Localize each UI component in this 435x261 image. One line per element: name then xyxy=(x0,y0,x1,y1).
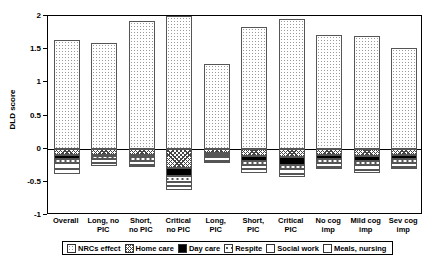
legend-swatch-icon xyxy=(266,244,275,253)
y-tick-mark xyxy=(43,214,47,215)
legend-label: Social work xyxy=(277,244,319,253)
y-axis-ticks: 21.510.50-0.5-1 xyxy=(0,15,47,214)
bar-stack xyxy=(279,16,305,215)
bar-segment xyxy=(354,170,380,173)
bar-segment xyxy=(279,149,305,158)
legend-swatch-icon xyxy=(224,244,233,253)
bar-segment xyxy=(241,149,267,156)
bar-stack xyxy=(54,16,80,215)
bar-segment xyxy=(391,149,417,156)
legend-swatch-icon xyxy=(67,244,76,253)
bar-segment xyxy=(204,161,230,163)
legend-label: Home care xyxy=(136,244,174,253)
bar-stack xyxy=(316,16,342,215)
y-tick-label: 0.5 xyxy=(30,110,41,119)
bar-segment xyxy=(279,19,305,149)
x-tick-label-line: Sev cog xyxy=(380,216,426,225)
bar-segment xyxy=(316,149,342,156)
y-tick-label: -0.5 xyxy=(27,176,41,185)
bar-segment xyxy=(354,149,380,156)
bar-segment xyxy=(204,64,230,148)
chart-figure: DLD score 21.510.50-0.5-1 OverallLong, n… xyxy=(0,0,435,261)
bar-segment xyxy=(54,169,80,174)
legend-label: Day care xyxy=(189,244,220,253)
legend-label: Meals, nursing xyxy=(334,244,387,253)
bar-stack xyxy=(91,16,117,215)
bar-segment xyxy=(391,167,417,170)
y-tick-label: 2 xyxy=(37,11,41,20)
bar-stack xyxy=(129,16,155,215)
bar-segment xyxy=(166,149,192,168)
x-tick-label-line: imp xyxy=(380,225,426,234)
bar-segment xyxy=(129,149,155,156)
bar-segment xyxy=(241,27,267,148)
y-tick-label: 1.5 xyxy=(30,44,41,53)
legend-swatch-icon xyxy=(323,244,332,253)
y-tick-label: 0 xyxy=(37,143,41,152)
bar-segment xyxy=(166,16,192,149)
x-axis-labels: OverallLong, noPICShort,no PICCriticalno… xyxy=(47,216,422,242)
legend-swatch-icon xyxy=(178,244,187,253)
bar-segment xyxy=(91,163,117,166)
bar-segment xyxy=(316,35,342,149)
bar-segment xyxy=(391,48,417,149)
y-tick-label: 1 xyxy=(37,77,41,86)
bar-segment xyxy=(129,21,155,149)
legend-item[interactable]: NRCs effect xyxy=(67,244,121,253)
bar-segment xyxy=(241,169,267,172)
legend-item[interactable]: Day care xyxy=(178,244,220,253)
bar-segment xyxy=(54,149,80,156)
bar-segment xyxy=(54,40,80,149)
legend-item[interactable]: Respite xyxy=(224,244,262,253)
bar-stack xyxy=(391,16,417,215)
bar-segment xyxy=(166,168,192,176)
bar-segment xyxy=(279,157,305,164)
legend-item[interactable]: Social work xyxy=(266,244,319,253)
bar-segment xyxy=(129,165,155,168)
x-tick-label: Sev cogimp xyxy=(380,216,426,234)
chart-legend: NRCs effectHome careDay careRespiteSocia… xyxy=(62,241,393,255)
legend-label: NRCs effect xyxy=(78,244,121,253)
bar-stack xyxy=(166,16,192,215)
bar-segment xyxy=(166,186,192,189)
bar-segment xyxy=(279,174,305,177)
y-tick-label: -1 xyxy=(34,210,41,219)
legend-item[interactable]: Home care xyxy=(125,244,174,253)
legend-label: Respite xyxy=(235,244,262,253)
legend-item[interactable]: Meals, nursing xyxy=(323,244,387,253)
bar-segment xyxy=(354,36,380,149)
bar-segment xyxy=(316,167,342,170)
bar-segment xyxy=(91,43,117,148)
bar-stack xyxy=(241,16,267,215)
legend-swatch-icon xyxy=(125,244,134,253)
bar-stack xyxy=(204,16,230,215)
bar-stack xyxy=(354,16,380,215)
plot-area xyxy=(47,15,422,214)
